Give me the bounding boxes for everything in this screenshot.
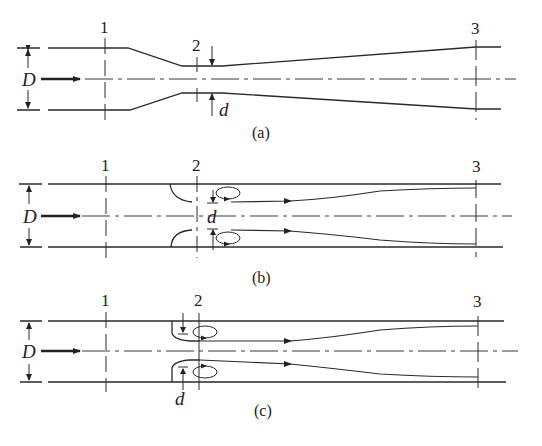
arrowhead-icon — [209, 93, 215, 100]
station-3-label: 3 — [472, 157, 481, 176]
recirculation-eddy-bottom — [216, 232, 240, 244]
arrowhead-icon — [26, 374, 32, 381]
station-3-label: 3 — [471, 19, 480, 38]
arrowhead-icon — [224, 197, 230, 202]
arrowhead-icon — [180, 327, 186, 333]
station-2-label: 2 — [192, 36, 201, 55]
arrowhead-icon — [26, 239, 32, 246]
jet-streamline-top — [231, 188, 476, 202]
arrowhead-icon — [210, 197, 216, 203]
arrowhead-icon — [209, 59, 215, 66]
label-d: d — [219, 99, 229, 120]
station-1-label: 1 — [101, 156, 110, 175]
recirculation-eddy-top — [216, 187, 240, 199]
label-D: D — [22, 206, 37, 227]
panel-c-orifice: D 1 2 3 d (c) — [20, 291, 518, 420]
caption-c: (c) — [254, 402, 272, 420]
venturi-top-wall — [17, 47, 501, 66]
arrowhead-icon — [284, 198, 292, 204]
recirculation-eddy-bottom — [193, 366, 217, 378]
arrowhead-icon — [25, 49, 31, 56]
arrowhead-icon — [201, 364, 207, 369]
jet-streamline-top — [200, 326, 478, 341]
arrowhead-icon — [201, 336, 207, 341]
orifice-plate-bottom — [172, 360, 200, 382]
arrowhead-icon — [284, 361, 292, 367]
label-D: D — [21, 69, 36, 90]
flow-meter-diagram: D 1 2 3 d (a) D 1 2 — [0, 0, 542, 446]
caption-b: (b) — [252, 269, 271, 287]
caption-a: (a) — [252, 124, 270, 142]
arrowhead-icon — [284, 338, 292, 344]
label-d: d — [207, 206, 217, 227]
panel-b-flow-nozzle: D 1 2 3 d (b) — [19, 156, 512, 287]
arrowhead-icon — [284, 228, 292, 234]
station-2-label: 2 — [192, 156, 201, 175]
venturi-bottom-wall — [17, 93, 501, 110]
arrowhead-icon — [26, 185, 32, 192]
jet-streamline-bottom — [231, 230, 476, 244]
station-3-label: 3 — [473, 292, 482, 311]
nozzle-bottom-curve — [171, 230, 192, 247]
label-D: D — [21, 341, 36, 362]
station-1-label: 1 — [100, 18, 109, 37]
panel-a-venturi: D 1 2 3 d (a) — [17, 18, 516, 142]
arrowhead-icon — [26, 322, 32, 329]
nozzle-top-curve — [170, 184, 192, 202]
orifice-plate-top — [172, 321, 200, 341]
arrowhead-icon — [180, 368, 186, 374]
arrowhead-icon — [25, 102, 31, 109]
recirculation-eddy-top — [193, 326, 217, 338]
station-1-label: 1 — [101, 291, 110, 310]
arrowhead-icon — [224, 242, 230, 247]
arrowhead-icon — [210, 229, 216, 235]
station-2-label: 2 — [194, 291, 203, 310]
jet-streamline-bottom — [200, 360, 478, 377]
label-d: d — [175, 388, 185, 409]
